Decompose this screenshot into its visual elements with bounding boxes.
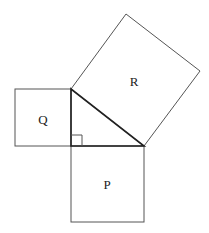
label-r: R: [130, 74, 139, 89]
pythagorean-diagram: R Q P: [0, 0, 209, 233]
right-angle-mark: [71, 135, 82, 146]
label-q: Q: [38, 112, 48, 127]
label-p: P: [103, 177, 110, 192]
